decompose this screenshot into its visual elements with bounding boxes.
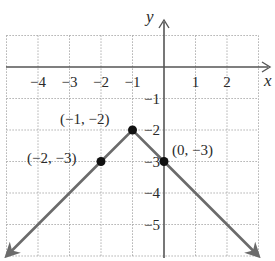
axes: x y	[6, 7, 272, 258]
x-tick-label: −4	[30, 74, 46, 90]
x-tick-label: −3	[62, 74, 78, 90]
point-label-left: (−2, −3)	[27, 150, 76, 167]
data-point	[128, 126, 137, 135]
x-axis-label: x	[263, 71, 272, 90]
point-label-vertex: (−1, −2)	[60, 111, 109, 128]
point-label-yintercept: (0, −3)	[172, 142, 213, 159]
x-tick-labels: −4−3−2−112	[30, 74, 231, 90]
data-point	[160, 157, 169, 166]
y-tick-labels: −1−2−3−4−5	[144, 91, 160, 233]
y-tick-label: −1	[144, 91, 160, 107]
x-tick-label: 2	[223, 74, 231, 90]
y-tick-label: −4	[144, 185, 160, 201]
x-tick-label: −2	[93, 74, 109, 90]
y-tick-label: −5	[144, 217, 160, 233]
graph-plot: x y −4−3−2−112 −1−2−3−4−5 (−1, −2) (−2, …	[0, 0, 275, 261]
y-axis-label: y	[144, 7, 154, 26]
grid	[7, 36, 259, 257]
y-tick-label: −2	[144, 122, 160, 138]
x-tick-label: −1	[125, 74, 141, 90]
x-tick-label: 1	[192, 74, 200, 90]
data-point	[97, 157, 106, 166]
